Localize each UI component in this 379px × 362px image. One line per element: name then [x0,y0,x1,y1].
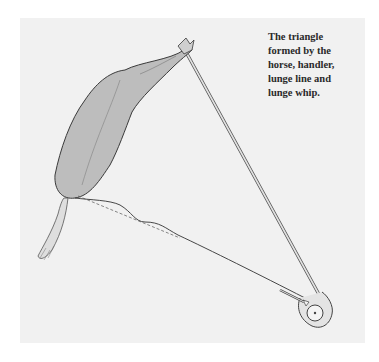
lunge-line [75,196,305,298]
caption-line: The triangle [268,30,368,44]
caption-line: horse, handler, [268,58,368,72]
horse [38,38,194,260]
caption-line: formed by the [268,44,368,58]
caption-line: lunge line and [268,72,368,86]
caption-line: lunge whip. [268,86,368,100]
handler [280,290,332,327]
caption: The triangle formed by the horse, handle… [268,30,368,100]
